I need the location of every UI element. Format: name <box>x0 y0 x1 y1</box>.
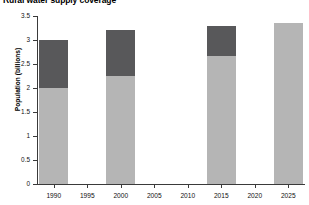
y-tick: 1.5 <box>33 112 37 113</box>
x-axis-line <box>37 184 305 185</box>
bar-1990 <box>39 40 68 184</box>
y-tick: 2 <box>33 88 37 89</box>
x-tick-label: 2015 <box>214 192 229 199</box>
bar-segment-upper <box>207 26 236 56</box>
y-tick-label: 2 <box>26 84 30 91</box>
x-tick <box>154 184 155 188</box>
bar-segment-upper <box>39 40 68 88</box>
chart-figure: Rural water supply coverage Population (… <box>0 0 309 205</box>
y-tick-label: 3.5 <box>21 12 30 19</box>
y-axis-title: Population (billions) <box>14 25 21 135</box>
y-tick: 1 <box>33 136 37 137</box>
y-tick-label: 3 <box>26 36 30 43</box>
x-tick-label: 1990 <box>46 192 61 199</box>
y-tick: 0 <box>33 184 37 185</box>
x-tick-label: 2000 <box>113 192 128 199</box>
y-tick-label: 2.5 <box>21 60 30 67</box>
x-tick <box>255 184 256 188</box>
bar-2025 <box>274 23 303 184</box>
x-tick-label: 2010 <box>180 192 195 199</box>
y-tick: 3 <box>33 40 37 41</box>
y-axis-line <box>37 16 38 184</box>
bar-segment-lower <box>39 88 68 184</box>
x-tick <box>188 184 189 188</box>
x-tick <box>121 184 122 188</box>
y-tick-label: 1 <box>26 132 30 139</box>
bar-segment-lower <box>106 76 135 184</box>
bar-segment-lower <box>274 23 303 184</box>
x-tick-label: 2025 <box>281 192 296 199</box>
bar-segment-lower <box>207 56 236 184</box>
x-tick <box>54 184 55 188</box>
y-tick: 2.5 <box>33 64 37 65</box>
x-tick <box>87 184 88 188</box>
bar-segment-upper <box>106 30 135 76</box>
y-tick-label: 1.5 <box>21 108 30 115</box>
y-tick-label: 0.5 <box>21 156 30 163</box>
plot-area: 00.511.522.533.5 19901995200020052010201… <box>37 16 305 184</box>
bar-2015 <box>207 26 236 184</box>
y-tick-label: 0 <box>26 180 30 187</box>
bar-2000 <box>106 30 135 184</box>
x-tick <box>288 184 289 188</box>
x-tick-label: 2020 <box>247 192 262 199</box>
chart-title: Rural water supply coverage <box>3 0 116 5</box>
x-tick <box>221 184 222 188</box>
y-tick: 3.5 <box>33 16 37 17</box>
x-tick-label: 2005 <box>147 192 162 199</box>
x-tick-label: 1995 <box>80 192 95 199</box>
y-tick: 0.5 <box>33 160 37 161</box>
